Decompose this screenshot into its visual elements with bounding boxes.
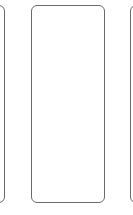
card-right-partial[interactable] [130, 5, 133, 203]
card-center[interactable] [31, 5, 105, 203]
card-left-partial[interactable] [0, 5, 5, 203]
